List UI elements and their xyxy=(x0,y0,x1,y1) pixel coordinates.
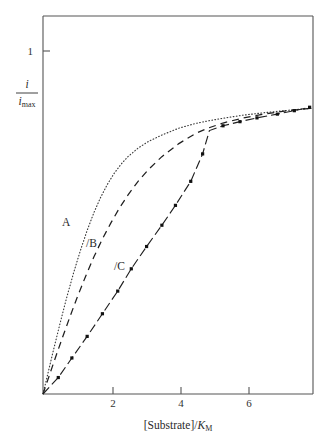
x-tick-label-2: 2 xyxy=(110,397,116,409)
data-point-marker xyxy=(201,152,204,155)
series-label-c: /C xyxy=(114,260,125,272)
x-tick-label-6: 6 xyxy=(246,397,252,409)
curve-series-c xyxy=(43,107,310,394)
y-axis-numerator: i xyxy=(25,78,28,90)
y-axis-denominator: imax xyxy=(19,95,36,109)
data-point-marker xyxy=(160,224,163,227)
data-point-marker xyxy=(86,335,89,338)
data-point-marker xyxy=(57,376,60,379)
data-point-marker xyxy=(70,356,73,359)
data-point-marker xyxy=(130,267,133,270)
x-axis-ticks: 2 4 6 xyxy=(110,387,252,409)
data-point-marker xyxy=(276,113,279,116)
series-label-b: /B xyxy=(86,237,97,249)
data-point-marker xyxy=(116,290,119,293)
series-annotations: A /B /C xyxy=(62,216,125,272)
data-point-marker xyxy=(189,180,192,183)
y-axis-ticks: 1 xyxy=(28,45,51,57)
plot-frame xyxy=(43,16,313,394)
data-point-marker xyxy=(101,312,104,315)
data-point-marker xyxy=(308,106,311,109)
curve-series-a xyxy=(43,108,311,394)
series-label-a: A xyxy=(62,216,71,228)
x-axis-title-text: [Substrate]/KM xyxy=(144,419,213,433)
y-axis-title: i imax xyxy=(16,78,38,109)
curve-series-b xyxy=(43,108,311,394)
plot-canvas: 1 2 4 6 A /B /C i imax xyxy=(0,0,332,444)
x-tick-label-4: 4 xyxy=(178,397,184,409)
data-point-marker xyxy=(174,204,177,207)
data-curves xyxy=(43,106,311,394)
data-point-marker xyxy=(145,245,148,248)
data-point-marker xyxy=(238,120,241,123)
data-point-marker xyxy=(255,116,258,119)
data-point-marker xyxy=(221,124,224,127)
y-tick-label-1: 1 xyxy=(28,45,34,57)
data-point-marker xyxy=(293,109,296,112)
x-axis-title: [Substrate]/KM xyxy=(144,419,213,433)
enzyme-kinetics-figure: 1 2 4 6 A /B /C i imax xyxy=(0,0,332,444)
